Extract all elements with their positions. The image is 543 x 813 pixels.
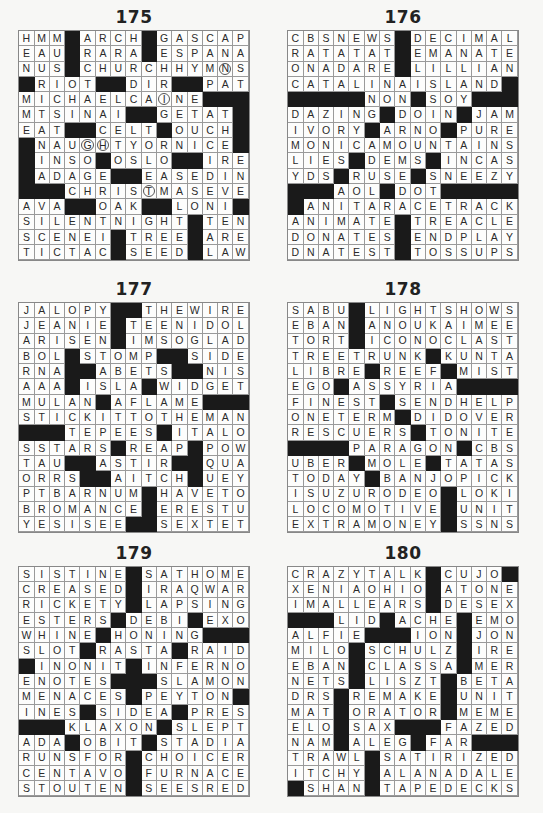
letter-cell: N xyxy=(157,659,172,674)
letter-cell: R xyxy=(334,517,349,532)
letter-cell: S xyxy=(502,456,517,471)
letter-cell: E xyxy=(218,379,233,394)
letter-cell: L xyxy=(365,184,380,199)
letter-cell: G xyxy=(304,379,319,394)
letter-cell: T xyxy=(142,471,157,486)
black-square xyxy=(126,751,141,766)
black-square xyxy=(172,77,187,92)
letter-cell: A xyxy=(172,31,187,46)
letter-cell: T xyxy=(426,425,441,440)
letter-cell: N xyxy=(426,395,441,410)
black-square xyxy=(142,107,157,122)
letter-cell: R xyxy=(126,62,141,77)
letter-cell: E xyxy=(411,46,426,61)
letter-cell: A xyxy=(65,441,80,456)
letter-cell: R xyxy=(288,46,303,61)
letter-cell: S xyxy=(19,441,34,456)
letter-cell: D xyxy=(111,582,126,597)
black-square xyxy=(457,628,472,643)
letter-cell: S xyxy=(395,395,410,410)
letter-cell: O xyxy=(319,720,334,735)
letter-cell: T xyxy=(319,674,334,689)
letter-cell: O xyxy=(172,334,187,349)
letter-cell: M xyxy=(126,349,141,364)
letter-cell: A xyxy=(111,643,126,658)
black-square xyxy=(142,379,157,394)
letter-cell: H xyxy=(19,31,34,46)
letter-cell: R xyxy=(218,230,233,245)
letter-cell: N xyxy=(142,720,157,735)
letter-cell: N xyxy=(304,62,319,77)
letter-cell: I xyxy=(203,303,218,318)
letter-cell: P xyxy=(349,441,364,456)
letter-cell: M xyxy=(304,598,319,613)
letter-cell: L xyxy=(441,77,456,92)
letter-cell: L xyxy=(111,92,126,107)
letter-cell: N xyxy=(487,582,502,597)
black-square xyxy=(233,138,248,153)
letter-cell: Z xyxy=(411,674,426,689)
letter-cell: T xyxy=(80,77,95,92)
letter-cell: A xyxy=(349,379,364,394)
letter-cell: F xyxy=(288,395,303,410)
letter-cell: C xyxy=(441,31,456,46)
letter-cell: S xyxy=(472,517,487,532)
letter-cell: E xyxy=(218,138,233,153)
letter-cell: A xyxy=(111,395,126,410)
letter-cell: C xyxy=(35,230,50,245)
letter-cell: A xyxy=(96,364,111,379)
letter-cell: N xyxy=(304,410,319,425)
black-square xyxy=(126,582,141,597)
black-square xyxy=(188,441,203,456)
black-square xyxy=(126,517,141,532)
letter-cell: S xyxy=(142,567,157,582)
letter-cell: M xyxy=(35,31,50,46)
letter-cell: C xyxy=(365,659,380,674)
letter-cell: C xyxy=(288,77,303,92)
letter-cell: L xyxy=(334,613,349,628)
letter-cell: S xyxy=(35,441,50,456)
letter-cell: A xyxy=(172,582,187,597)
letter-cell: J xyxy=(472,567,487,582)
letter-cell: X xyxy=(288,582,303,597)
letter-cell: T xyxy=(395,705,410,720)
letter-cell: A xyxy=(395,751,410,766)
letter-cell: T xyxy=(426,184,441,199)
letter-cell: D xyxy=(441,781,456,796)
letter-cell: U xyxy=(365,169,380,184)
crossword-grid: SABULIGHTSHOWSEBANANOUKAIMEETORTICONOCLA… xyxy=(287,302,518,533)
puzzle-number: 176 xyxy=(285,4,521,30)
letter-cell: N xyxy=(334,31,349,46)
black-square xyxy=(441,364,456,379)
letter-cell: C xyxy=(203,123,218,138)
letter-cell: A xyxy=(50,364,65,379)
letter-cell: N xyxy=(80,395,95,410)
letter-cell: Y xyxy=(395,379,410,394)
letter-cell: E xyxy=(50,582,65,597)
letter-cell: R xyxy=(288,425,303,440)
letter-cell: O xyxy=(349,184,364,199)
letter-cell: M xyxy=(472,318,487,333)
black-square xyxy=(111,169,126,184)
letter-cell: E xyxy=(35,766,50,781)
letter-cell: N xyxy=(395,92,410,107)
letter-cell: B xyxy=(380,471,395,486)
letter-cell: R xyxy=(96,31,111,46)
letter-cell: F xyxy=(172,659,187,674)
letter-cell: L xyxy=(457,334,472,349)
letter-cell: T xyxy=(349,199,364,214)
letter-cell: A xyxy=(349,62,364,77)
black-square xyxy=(334,379,349,394)
black-square xyxy=(334,689,349,704)
letter-cell: D xyxy=(457,766,472,781)
black-square xyxy=(349,334,364,349)
letter-cell: A xyxy=(233,735,248,750)
letter-cell: A xyxy=(203,766,218,781)
letter-cell: O xyxy=(426,245,441,260)
letter-cell: O xyxy=(472,487,487,502)
letter-cell: Y xyxy=(288,169,303,184)
black-square xyxy=(457,107,472,122)
black-square xyxy=(288,613,303,628)
letter-cell: H xyxy=(157,751,172,766)
letter-cell: L xyxy=(288,364,303,379)
